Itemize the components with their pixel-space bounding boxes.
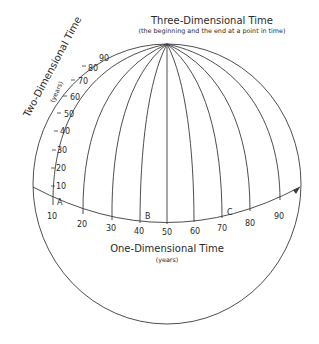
horizontal-tick-50: 50 <box>162 228 172 237</box>
point-a-label: A <box>57 198 63 207</box>
three-dimensional-time-title: Three-Dimensional Time <box>150 15 273 26</box>
meridian-40 <box>140 44 167 223</box>
meridian-90 <box>167 44 280 200</box>
two-dimensional-time-subtitle: (years) <box>49 80 65 104</box>
vertical-tick-80: 80 <box>88 64 98 73</box>
meridian-30 <box>112 44 167 220</box>
vertical-tick-40: 40 <box>60 127 70 136</box>
two-dimensional-time-title: Two-Dimensional Time <box>21 15 84 120</box>
vertical-tick-30: 30 <box>57 146 67 155</box>
arrowhead-icon <box>293 187 300 194</box>
vertical-tick-60: 60 <box>70 93 80 102</box>
horizontal-tick-10: 10 <box>47 212 57 221</box>
meridian-10 <box>53 44 167 205</box>
horizontal-tick-30: 30 <box>106 224 116 233</box>
vertical-tick-50: 50 <box>64 110 74 119</box>
vertical-tick-10: 10 <box>56 182 66 191</box>
vertical-tick-20: 20 <box>56 164 66 173</box>
horizontal-tick-40: 40 <box>134 227 144 236</box>
horizontal-tick-60: 60 <box>190 227 200 236</box>
point-b-label: B <box>145 212 151 221</box>
horizontal-tick-90: 90 <box>274 212 284 221</box>
horizontal-tick-80: 80 <box>245 219 255 228</box>
point-c-label: C <box>227 208 233 217</box>
three-dimensional-time-subtitle: (the beginning and the end at a point in… <box>138 27 285 35</box>
meridian-70 <box>167 44 222 218</box>
horizontal-tick-70: 70 <box>217 224 227 233</box>
one-dimensional-time-subtitle: (years) <box>156 256 179 264</box>
vertical-tick-70: 70 <box>78 77 88 86</box>
meridian-80 <box>167 44 250 211</box>
horizontal-tick-20: 20 <box>77 220 87 229</box>
one-dimensional-time-title: One-Dimensional Time <box>110 243 224 254</box>
vertical-tick-90: 90 <box>99 54 109 63</box>
time-sphere-diagram: Three-Dimensional Time (the beginning an… <box>0 0 319 344</box>
equator-arc <box>33 187 300 223</box>
